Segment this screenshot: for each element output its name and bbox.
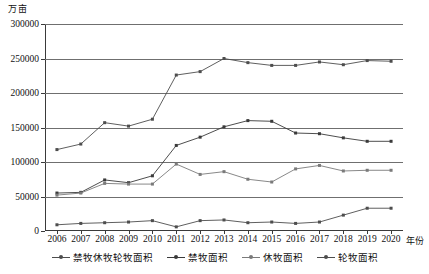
- chart-legend: 禁牧休牧轮牧面积禁牧面积休牧面积轮牧面积: [0, 250, 429, 264]
- data-point-marker: [55, 148, 58, 151]
- data-point-marker: [103, 221, 106, 224]
- data-point-marker: [246, 178, 249, 181]
- y-axis-tick-label: 150000: [11, 123, 40, 133]
- data-point-marker: [127, 221, 130, 224]
- x-axis-tick-label: 2020: [382, 234, 401, 244]
- data-point-marker: [103, 178, 106, 181]
- x-axis-tick-label: 2017: [310, 234, 329, 244]
- line-chart: 万亩 050000100000150000200000250000300000 …: [0, 0, 429, 274]
- legend-label: 轮牧面积: [338, 250, 378, 264]
- x-axis-tick-label: 2007: [71, 234, 90, 244]
- x-axis-tick-label: 2014: [238, 234, 257, 244]
- data-point-marker: [79, 143, 82, 146]
- data-point-marker: [318, 164, 321, 167]
- data-point-marker: [103, 182, 106, 185]
- data-point-marker: [366, 169, 369, 172]
- legend-label: 禁牧休牧轮牧面积: [73, 250, 153, 264]
- data-point-marker: [294, 167, 297, 170]
- data-point-marker: [55, 194, 58, 197]
- data-point-marker: [366, 140, 369, 143]
- data-point-marker: [175, 163, 178, 166]
- data-point-marker: [342, 169, 345, 172]
- data-point-marker: [151, 118, 154, 121]
- data-point-marker: [390, 140, 393, 143]
- data-point-marker: [270, 64, 273, 67]
- data-point-marker: [366, 59, 369, 62]
- x-axis-tick: [319, 231, 320, 234]
- data-point-marker: [342, 136, 345, 139]
- data-point-marker: [390, 60, 393, 63]
- data-point-marker: [246, 119, 249, 122]
- legend-marker-icon: [167, 253, 185, 261]
- data-point-marker: [318, 132, 321, 135]
- x-axis-tick-label: 2008: [95, 234, 114, 244]
- legend-marker-icon: [242, 253, 260, 261]
- x-axis-tick: [391, 231, 392, 234]
- data-point-marker: [270, 221, 273, 224]
- data-point-marker: [294, 132, 297, 135]
- series-line: [57, 121, 391, 193]
- y-axis-tick-label: 300000: [11, 19, 40, 29]
- data-point-marker: [246, 61, 249, 64]
- data-point-marker: [223, 125, 226, 128]
- y-axis-tick-label: 200000: [11, 88, 40, 98]
- x-axis-tick: [367, 231, 368, 234]
- x-axis-tick-label: 2010: [143, 234, 162, 244]
- legend-label: 禁牧面积: [188, 250, 228, 264]
- x-axis-tick: [224, 231, 225, 234]
- data-point-marker: [366, 207, 369, 210]
- data-point-marker: [318, 60, 321, 63]
- data-point-marker: [199, 173, 202, 176]
- legend-marker-icon: [52, 253, 70, 261]
- legend-item-2[interactable]: 禁牧面积: [167, 250, 228, 264]
- x-axis-tick-label: 2016: [286, 234, 305, 244]
- y-axis-tick-label: 100000: [11, 157, 40, 167]
- data-point-marker: [175, 74, 178, 77]
- data-point-marker: [175, 144, 178, 147]
- series-line: [57, 164, 391, 195]
- data-point-marker: [294, 222, 297, 225]
- data-point-marker: [270, 120, 273, 123]
- data-point-marker: [103, 121, 106, 124]
- x-axis-tick: [105, 231, 106, 234]
- data-point-marker: [151, 183, 154, 186]
- x-axis-tick: [200, 231, 201, 234]
- x-axis-tick-label: 2018: [334, 234, 353, 244]
- legend-item-3[interactable]: 休牧面积: [242, 250, 303, 264]
- legend-marker-icon: [317, 253, 335, 261]
- data-point-marker: [223, 218, 226, 221]
- y-axis-tick-label: 250000: [11, 54, 40, 64]
- x-axis-tick-label: 2015: [262, 234, 281, 244]
- data-point-marker: [390, 207, 393, 210]
- series-line: [57, 208, 391, 227]
- data-point-marker: [55, 223, 58, 226]
- data-point-marker: [390, 169, 393, 172]
- series-4: [55, 207, 392, 229]
- data-point-marker: [270, 181, 273, 184]
- data-point-marker: [199, 136, 202, 139]
- y-axis-unit-label: 万亩: [8, 2, 27, 15]
- data-point-marker: [151, 219, 154, 222]
- x-axis-tick: [296, 231, 297, 234]
- data-point-marker: [151, 174, 154, 177]
- data-point-marker: [223, 170, 226, 173]
- data-point-marker: [342, 63, 345, 66]
- x-axis-tick-label: 2013: [215, 234, 234, 244]
- x-axis-tick: [176, 231, 177, 234]
- data-point-marker: [294, 64, 297, 67]
- legend-item-4[interactable]: 轮牧面积: [317, 250, 378, 264]
- y-axis-tick-label: 50000: [15, 192, 39, 202]
- x-axis-tick: [343, 231, 344, 234]
- data-point-marker: [223, 57, 226, 60]
- y-axis-tick-label: 0: [34, 226, 39, 236]
- x-axis-tick: [248, 231, 249, 234]
- x-axis-tick-label: 2009: [119, 234, 138, 244]
- legend-label: 休牧面积: [263, 250, 303, 264]
- y-axis-tick: [41, 231, 45, 232]
- data-point-marker: [175, 225, 178, 228]
- data-point-marker: [199, 70, 202, 73]
- data-point-marker: [79, 192, 82, 195]
- legend-item-1[interactable]: 禁牧休牧轮牧面积: [52, 250, 153, 264]
- series-layer: [45, 24, 403, 231]
- data-point-marker: [246, 221, 249, 224]
